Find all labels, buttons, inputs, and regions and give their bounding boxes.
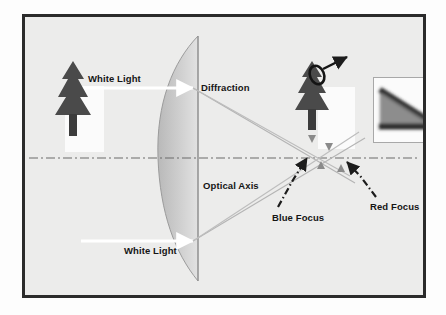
ray-arrowhead-b: [308, 135, 316, 143]
magnifier-pointer-arrow: [323, 57, 347, 69]
ray-arrowhead-d: [337, 164, 345, 172]
label-red-focus: Red Focus: [370, 202, 419, 212]
object-tree-left: [55, 61, 91, 136]
optics-diagram-canvas: [25, 17, 423, 295]
label-white-light-top: White Light: [88, 74, 141, 84]
label-blue-focus: Blue Focus: [272, 213, 324, 223]
ray-upper-blue: [193, 88, 350, 176]
figure-frame: White Light Diffraction Optical Axis Blu…: [22, 14, 426, 298]
magnified-inset-panel: [373, 77, 426, 143]
red-focus-arrow: [347, 162, 376, 197]
label-diffraction: Diffraction: [201, 83, 250, 93]
label-white-light-bottom: White Light: [124, 246, 177, 256]
figure-stage: White Light Diffraction Optical Axis Blu…: [0, 0, 446, 315]
label-optical-axis: Optical Axis: [203, 181, 259, 191]
inset-canvas: [374, 78, 426, 142]
